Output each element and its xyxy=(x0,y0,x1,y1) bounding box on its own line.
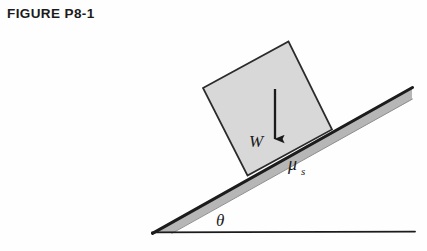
horizontal-baseline xyxy=(152,232,415,233)
inclined-plane-diagram: W μ s θ xyxy=(0,0,427,251)
angle-label: θ xyxy=(216,211,224,230)
weight-label: W xyxy=(249,132,265,151)
block-on-incline xyxy=(203,42,332,176)
mu-symbol: μ xyxy=(287,154,297,174)
mu-subscript-s: s xyxy=(301,165,305,177)
block-shape xyxy=(203,42,332,176)
figure-container: FIGURE P8-1 W μ s θ xyxy=(0,0,427,251)
